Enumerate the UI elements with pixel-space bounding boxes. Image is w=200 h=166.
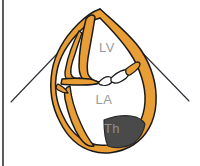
label-left-ventricle: LV bbox=[99, 40, 115, 55]
label-thrombus: Th bbox=[104, 121, 120, 136]
ventricular-trabeculation bbox=[61, 78, 99, 85]
label-left-atrium: LA bbox=[96, 92, 113, 107]
echo-diagram-canvas: LV LA Th bbox=[0, 0, 200, 166]
echo-figure: LV LA Th bbox=[0, 0, 200, 166]
